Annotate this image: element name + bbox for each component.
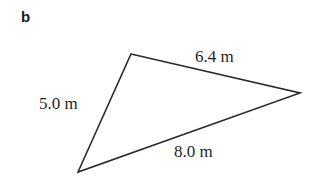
figure-canvas: b 6.4 m 5.0 m 8.0 m <box>0 0 317 188</box>
side-length-label-bottom: 8.0 m <box>174 143 213 161</box>
side-length-label-left: 5.0 m <box>39 95 78 113</box>
side-length-label-top: 6.4 m <box>195 48 234 66</box>
